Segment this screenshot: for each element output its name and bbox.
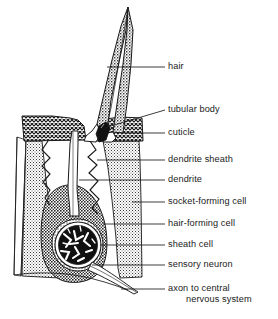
label-cuticle: cuticle — [168, 127, 195, 138]
label-tubular-body: tubular body — [168, 104, 220, 115]
label-hair-forming-cell: hair-forming cell — [168, 218, 235, 229]
label-socket-forming-cell: socket-forming cell — [168, 196, 247, 207]
label-dendrite-sheath: dendrite sheath — [168, 154, 233, 165]
label-hair: hair — [168, 61, 184, 72]
hair-sensillum-diagram — [0, 0, 278, 319]
diagram-canvas: hair tubular body cuticle dendrite sheat… — [0, 0, 278, 319]
label-dendrite: dendrite — [168, 174, 202, 185]
sensory-neuron-soma — [55, 222, 101, 268]
label-axon-line2: nervous system — [186, 294, 252, 305]
label-sensory-neuron: sensory neuron — [168, 259, 233, 270]
label-sheath-cell: sheath cell — [168, 239, 213, 250]
label-axon-line1: axon to central — [168, 283, 230, 294]
dendrite-tube — [68, 131, 79, 216]
